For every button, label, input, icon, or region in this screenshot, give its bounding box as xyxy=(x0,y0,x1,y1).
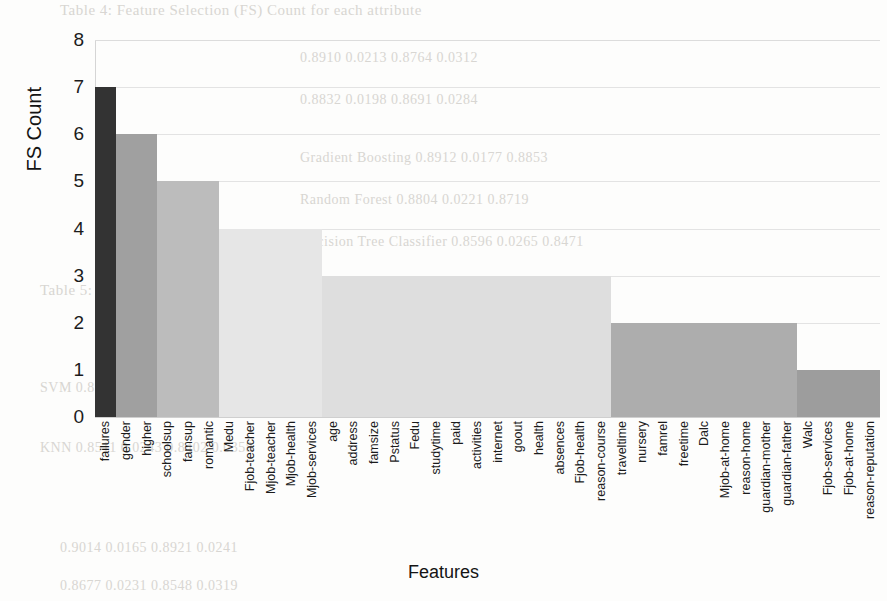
x-tick-famrel: famrel xyxy=(653,421,674,553)
x-tick-label: famsup xyxy=(182,421,195,462)
bar-Fjob-at-home xyxy=(839,370,860,417)
x-tick-activities: activities xyxy=(467,421,488,553)
bar-romantic xyxy=(198,181,219,417)
x-tick-age: age xyxy=(322,421,343,553)
x-tick-nursery: nursery xyxy=(632,421,653,553)
x-tick-label: absences xyxy=(554,421,567,475)
x-tick-label: Fjob-at-home xyxy=(843,421,856,495)
bar-age xyxy=(322,276,343,417)
x-axis-ticks: failuresgenderhigherschoolsupfamsuproman… xyxy=(95,421,880,553)
x-tick-Fjob-teacher: Fjob-teacher xyxy=(240,421,261,553)
bar-nursery xyxy=(632,323,653,417)
bar-reason-reputation xyxy=(859,370,880,417)
x-tick-label: activities xyxy=(471,421,484,469)
x-tick-Fedu: Fedu xyxy=(405,421,426,553)
bar-reason-course xyxy=(591,276,612,417)
x-tick-Mjob-health: Mjob-health xyxy=(281,421,302,553)
x-tick-studytime: studytime xyxy=(426,421,447,553)
x-tick-reason-reputation: reason-reputation xyxy=(859,421,880,553)
x-tick-internet: internet xyxy=(487,421,508,553)
x-tick-label: paid xyxy=(450,421,463,445)
x-tick-label: traveltime xyxy=(615,421,628,475)
x-tick-Fjob-health: Fjob-health xyxy=(570,421,591,553)
x-tick-higher: higher xyxy=(136,421,157,553)
x-tick-label: gender xyxy=(120,421,133,460)
x-tick-reason-home: reason-home xyxy=(735,421,756,553)
x-tick-label: nursery xyxy=(636,421,649,463)
bar-Mjob-services xyxy=(302,229,323,418)
bar-famsup xyxy=(178,181,199,417)
x-tick-Mjob-teacher: Mjob-teacher xyxy=(260,421,281,553)
x-tick-reason-course: reason-course xyxy=(591,421,612,553)
x-tick-label: Walc xyxy=(801,421,814,448)
bar-Medu xyxy=(219,229,240,418)
x-tick-label: Fjob-teacher xyxy=(244,421,257,491)
bar-schoolsup xyxy=(157,181,178,417)
x-tick-label: freetime xyxy=(677,421,690,466)
bar-series xyxy=(95,40,880,417)
bar-gender xyxy=(116,134,137,417)
x-tick-label: internet xyxy=(492,421,505,463)
x-axis-title: Features xyxy=(0,562,887,583)
bar-address xyxy=(343,276,364,417)
x-tick-label: age xyxy=(326,421,339,442)
x-tick-Fjob-services: Fjob-services xyxy=(818,421,839,553)
x-tick-label: reason-reputation xyxy=(863,421,876,519)
gridline-0 xyxy=(95,417,880,418)
bar-Walc xyxy=(797,370,818,417)
x-tick-goout: goout xyxy=(508,421,529,553)
x-tick-label: Mjob-health xyxy=(285,421,298,486)
x-tick-Mjob-services: Mjob-services xyxy=(302,421,323,553)
bar-Fjob-health xyxy=(570,276,591,417)
bar-paid xyxy=(446,276,467,417)
bar-freetime xyxy=(673,323,694,417)
bar-failures xyxy=(95,87,116,417)
bar-health xyxy=(529,276,550,417)
x-tick-famsup: famsup xyxy=(178,421,199,553)
x-tick-label: guardian-father xyxy=(781,421,794,506)
x-tick-label: higher xyxy=(140,421,153,456)
x-tick-address: address xyxy=(343,421,364,553)
x-tick-label: romantic xyxy=(202,421,215,469)
y-tick-label-6: 6 xyxy=(58,123,84,145)
y-tick-label-5: 5 xyxy=(58,170,84,192)
x-tick-famsize: famsize xyxy=(364,421,385,553)
x-tick-label: address xyxy=(347,421,360,465)
bar-higher xyxy=(136,134,157,417)
x-tick-Pstatus: Pstatus xyxy=(384,421,405,553)
x-tick-absences: absences xyxy=(549,421,570,553)
background-bleed-text-0: Table 4: Feature Selection (FS) Count fo… xyxy=(60,2,422,19)
bar-Mjob-at-home xyxy=(715,323,736,417)
y-tick-label-4: 4 xyxy=(58,218,84,240)
bar-goout xyxy=(508,276,529,417)
x-tick-label: Medu xyxy=(223,421,236,452)
bar-Fjob-teacher xyxy=(240,229,261,418)
x-tick-Mjob-at-home: Mjob-at-home xyxy=(715,421,736,553)
x-tick-label: reason-course xyxy=(595,421,608,501)
bar-studytime xyxy=(426,276,447,417)
y-tick-label-0: 0 xyxy=(58,406,84,428)
y-axis-title: FS Count xyxy=(23,132,46,172)
chart-figure: Table 4: Feature Selection (FS) Count fo… xyxy=(0,0,887,601)
x-tick-label: failures xyxy=(99,421,112,461)
x-tick-guardian-father: guardian-father xyxy=(777,421,798,553)
x-tick-label: Dalc xyxy=(698,421,711,446)
bar-traveltime xyxy=(611,323,632,417)
x-tick-label: studytime xyxy=(430,421,443,475)
bar-Fjob-services xyxy=(818,370,839,417)
bar-guardian-mother xyxy=(756,323,777,417)
x-tick-label: Pstatus xyxy=(388,421,401,463)
bar-Pstatus xyxy=(384,276,405,417)
x-tick-label: Mjob-services xyxy=(306,421,319,498)
x-tick-health: health xyxy=(529,421,550,553)
plot-area xyxy=(95,40,880,417)
bar-internet xyxy=(487,276,508,417)
x-tick-failures: failures xyxy=(95,421,116,553)
bar-absences xyxy=(549,276,570,417)
x-tick-label: Fjob-services xyxy=(822,421,835,495)
x-tick-romantic: romantic xyxy=(198,421,219,553)
bar-guardian-father xyxy=(777,323,798,417)
y-tick-label-7: 7 xyxy=(58,76,84,98)
bar-famrel xyxy=(653,323,674,417)
x-tick-label: Fedu xyxy=(409,421,422,450)
